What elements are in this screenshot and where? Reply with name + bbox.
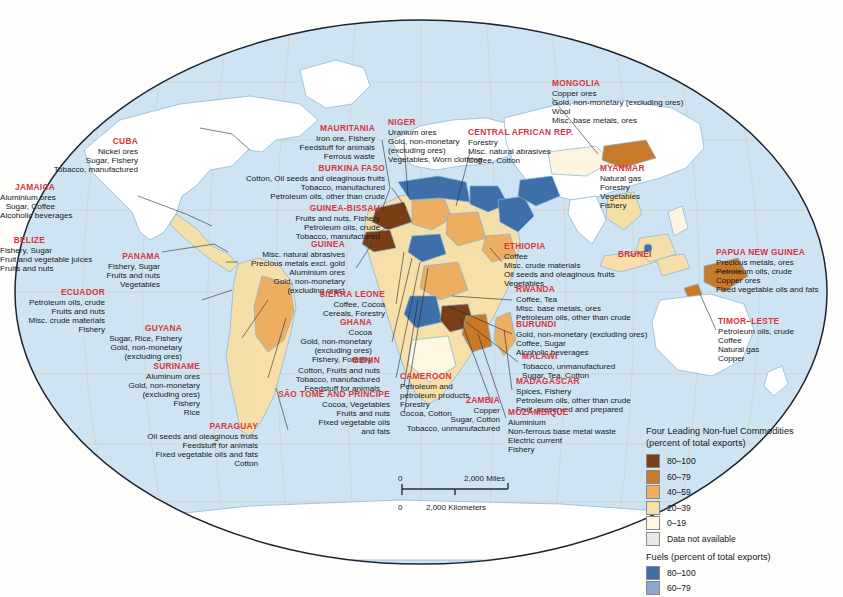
- callout-commodity: Misc. natural abrasives: [468, 147, 573, 156]
- callout-commodity: Misc. base metals, ores: [552, 116, 683, 125]
- callout-commodity: Fishery: [600, 201, 645, 210]
- legend-swatch: [646, 516, 660, 530]
- callout-country-name: CAMEROON: [400, 372, 469, 381]
- callout-country-name: GUINEA-BISSAU: [0, 204, 380, 213]
- callout-benin: BENINCotton, Fruits and nutsTobacco, man…: [0, 356, 380, 393]
- callout-commodity: Tobacco, unmanufactured: [522, 362, 615, 371]
- callout-commodity: Gold, non-monetary: [0, 277, 345, 286]
- legend-item: 60–79: [646, 581, 842, 595]
- legend-label: 0–19: [667, 518, 686, 528]
- legend-item: 0–19: [646, 516, 842, 530]
- callout-country-name: MOZAMBIQUE: [508, 408, 616, 417]
- legend-item: Data not available: [646, 532, 842, 546]
- callout-commodity: Aluminium: [508, 418, 616, 427]
- callout-commodity: Fruits and nuts, Fishery: [0, 214, 380, 223]
- callout-commodity: Gold, non-monetary (excluding ores): [516, 330, 647, 339]
- scale-kilometers-label: 2,000 Kilometers: [426, 503, 486, 512]
- callout-country-name: SIERRA LEONE: [0, 290, 385, 299]
- legend-group-nonfuel: 80–10060–7940–5920–390–19Data not availa…: [646, 454, 842, 546]
- legend-swatch: [646, 532, 660, 546]
- callout-myanmar: MYANMARNatural gasForestryVegetablesFish…: [600, 164, 645, 210]
- callout-commodity: Petroleum oils, crude: [0, 223, 380, 232]
- callout-mongolia: MONGOLIACopper oresGold, non-monetary (e…: [552, 79, 683, 125]
- scale-bar: 0 2,000 Miles 0 2,000 Kilometers: [398, 474, 548, 518]
- callout-commodity: Misc. natural abrasives: [0, 250, 345, 259]
- callout-country-name: ZAMBIA: [0, 396, 500, 405]
- callout-commodity: Petroleum and: [400, 382, 469, 391]
- legend-swatch: [646, 501, 660, 515]
- map-legend: Four Leading Non-fuel Commodities (perce…: [646, 426, 842, 597]
- callout-commodity: Oil seeds and oleaginous fruits: [504, 270, 615, 279]
- callout-burkina-faso: BURKINA FASOCotton, Oil seeds and oleagi…: [0, 164, 385, 201]
- callout-country-name: BURKINA FASO: [0, 164, 385, 173]
- callout-commodity: Cotton, Fruits and nuts: [0, 366, 380, 375]
- callout-commodity: Sugar, Cotton: [0, 415, 500, 424]
- callout-country-name: GUINEA: [0, 240, 345, 249]
- callout-commodity: Gold, non-monetary: [0, 337, 372, 346]
- callout-commodity: Cotton: [0, 459, 258, 468]
- callout-commodity: Gold, non-monetary (excluding ores): [552, 98, 683, 107]
- legend-swatch: [646, 581, 660, 595]
- callout-commodity: Precious metals excl. gold: [0, 259, 345, 268]
- callout-commodity: Feedstuff for animals: [0, 143, 375, 152]
- callout-country-name: BURUNDI: [516, 320, 647, 329]
- legend-item: 20–39: [646, 501, 842, 515]
- callout-mauritania: MAURITANIAIron ore, FisheryFeedstuff for…: [0, 124, 375, 161]
- callout-country-name: MALAWI: [522, 352, 615, 361]
- callout-commodity: Copper: [0, 406, 500, 415]
- callout-commodity: Coffee, Sugar: [516, 339, 647, 348]
- callout-rwanda: RWANDACoffee, TeaMisc. base metals, ores…: [516, 285, 631, 322]
- callout-commodity: Coffee, Cotton: [468, 156, 573, 165]
- legend-title-line2: (percent of total exports): [646, 438, 746, 448]
- legend-label: 20–39: [667, 503, 691, 513]
- callout-country-name: MADAGASCAR: [516, 377, 631, 386]
- callout-commodity: Fixed vegetable oils and fats: [0, 450, 258, 459]
- callout-commodity: Wool: [552, 107, 683, 116]
- callout-country-name: CENTRAL AFRICAN REP.: [468, 128, 573, 137]
- callout-commodity: Copper ores: [716, 276, 819, 285]
- callout-commodity: Misc. base metals, ores: [516, 304, 631, 313]
- callout-country-name: GHANA: [0, 318, 372, 327]
- legend-swatch: [646, 485, 660, 499]
- callout-country-name: PAPUA NEW GUINEA: [716, 248, 819, 257]
- callout-country-name: TIMOR–LESTE: [718, 317, 794, 326]
- legend-item: 80–100: [646, 454, 842, 468]
- callout-country-name: MYANMAR: [600, 164, 645, 173]
- legend-swatch: [646, 454, 660, 468]
- legend-label: 60–79: [667, 583, 691, 593]
- callout-zambia: ZAMBIACopperSugar, CottonTobacco, unmanu…: [0, 396, 500, 433]
- callout-commodity: Electric current: [508, 436, 616, 445]
- callout-brunei: BRUNEI: [618, 250, 652, 260]
- callout-commodity: Petroleum oils, other than crude: [0, 192, 385, 201]
- callout-commodity: Coffee, Cocoa: [0, 300, 385, 309]
- legend-item: 60–79: [646, 470, 842, 484]
- callout-country-name: MONGOLIA: [552, 79, 683, 88]
- callout-country-name: BENIN: [0, 356, 380, 365]
- scale-miles-label: 2,000 Miles: [464, 474, 505, 483]
- callout-commodity: Petroleum oils, crude: [718, 327, 794, 336]
- callout-commodity: Cereals, Forestry: [0, 309, 385, 318]
- callout-commodity: Aluminium ores: [0, 268, 345, 277]
- callout-commodity: Non-ferrous base metal waste: [508, 427, 616, 436]
- scale-zero-miles: 0: [398, 474, 402, 483]
- callout-country-name: BRUNEI: [618, 250, 652, 259]
- legend-label: Data not available: [667, 534, 736, 544]
- callout-commodity: Vegetables: [600, 192, 645, 201]
- callout-commodity: Cotton, Oil seeds and oleaginous fruits: [0, 174, 385, 183]
- legend-group-fuels: 80–10060–79: [646, 566, 842, 596]
- legend-swatch: [646, 470, 660, 484]
- legend-label: 60–79: [667, 472, 691, 482]
- legend-title: Four Leading Non-fuel Commodities (perce…: [646, 426, 842, 449]
- callout-country-name: RWANDA: [516, 285, 631, 294]
- callout-commodity: (excluding ores): [0, 346, 372, 355]
- callout-commodity: Forestry: [600, 183, 645, 192]
- legend-item: 80–100: [646, 566, 842, 580]
- callout-mozambique: MOZAMBIQUEAluminiumNon-ferrous base meta…: [508, 408, 616, 454]
- callout-ethiopia: ETHIOPIACoffeeMisc. crude materialsOil s…: [504, 242, 615, 288]
- callout-commodity: Fixed vegetable oils and fats: [716, 285, 819, 294]
- legend-label: 40–59: [667, 487, 691, 497]
- callout-commodity: Forestry: [468, 138, 573, 147]
- callout-commodity: Spices, Fishery: [516, 387, 631, 396]
- callout-commodity: Natural gas: [718, 345, 794, 354]
